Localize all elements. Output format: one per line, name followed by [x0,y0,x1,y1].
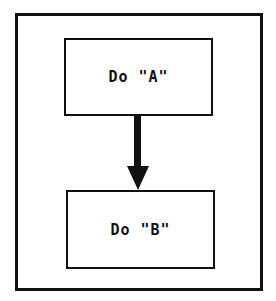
process-node-b: Do "B" [66,190,215,269]
arrow-shaft [134,114,141,170]
arrow-down-icon [127,166,149,190]
process-node-a: Do "A" [64,38,213,116]
node-b-label: Do "B" [110,221,170,239]
node-a-label: Do "A" [108,68,168,86]
